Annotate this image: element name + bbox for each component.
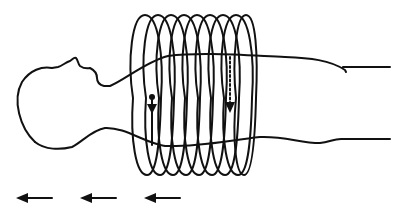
diagram-canvas (0, 0, 401, 217)
left-arrowhead-3 (144, 193, 156, 203)
left-arrowhead-2 (80, 193, 92, 203)
left-arrowhead-1 (16, 193, 28, 203)
solid-arrowhead (147, 104, 157, 114)
solenoid-coil (130, 15, 256, 175)
dot-marker (149, 94, 155, 100)
body-top-contour (18, 54, 390, 142)
diagram-svg (0, 0, 401, 217)
body-outline (18, 54, 390, 149)
